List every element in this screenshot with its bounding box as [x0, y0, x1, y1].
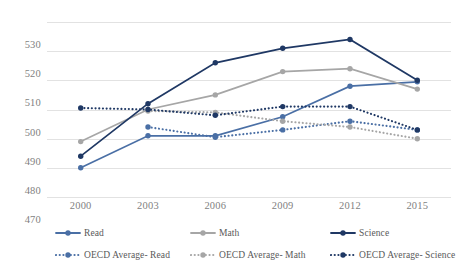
plot-area — [47, 22, 451, 197]
data-point — [78, 165, 83, 170]
data-point — [213, 113, 218, 118]
data-point — [280, 69, 285, 74]
y-tick-label: 510 — [25, 97, 41, 108]
gridline-470 — [47, 197, 451, 198]
data-point — [213, 60, 218, 65]
data-point — [347, 66, 352, 71]
data-point — [145, 107, 150, 112]
y-tick-label: 470 — [25, 214, 41, 225]
chart-legend: ReadMathScienceOECD Average- ReadOECD Av… — [0, 228, 469, 273]
line-chart: 470480490500510520530 200020032006200920… — [0, 0, 469, 273]
data-point — [415, 127, 420, 132]
data-point — [145, 124, 150, 129]
y-tick-label: 520 — [25, 68, 41, 79]
legend-item[interactable]: Read — [55, 228, 104, 238]
legend-label: OECD Average- Math — [219, 250, 306, 260]
series-lines — [47, 22, 451, 197]
data-point — [213, 92, 218, 97]
legend-swatch-icon — [55, 228, 81, 238]
legend-label: Math — [219, 228, 239, 238]
x-tick-label: 2000 — [70, 200, 92, 211]
legend-swatch-icon — [190, 228, 216, 238]
data-point — [347, 119, 352, 124]
y-tick-label: 530 — [25, 39, 41, 50]
data-point — [347, 37, 352, 42]
data-point — [415, 78, 420, 83]
data-point — [145, 133, 150, 138]
x-tick-label: 2009 — [272, 200, 294, 211]
data-point — [78, 105, 83, 110]
series-line — [81, 82, 418, 168]
legend-row: OECD Average- ReadOECD Average- MathOECD… — [0, 250, 469, 270]
legend-item[interactable]: Science — [330, 228, 389, 238]
data-point — [415, 136, 420, 141]
legend-label: Read — [84, 228, 104, 238]
y-tick-label: 500 — [25, 126, 41, 137]
legend-swatch-icon — [190, 250, 216, 260]
series-line — [81, 40, 418, 157]
legend-swatch-icon — [330, 228, 356, 238]
x-tick-label: 2015 — [406, 200, 428, 211]
data-point — [347, 84, 352, 89]
y-tick-label: 480 — [25, 184, 41, 195]
series-line — [81, 69, 418, 142]
data-point — [78, 139, 83, 144]
legend-swatch-icon — [330, 250, 356, 260]
data-point — [280, 127, 285, 132]
x-tick-label: 2006 — [204, 200, 226, 211]
legend-row: ReadMathScience — [0, 228, 469, 248]
legend-item[interactable]: OECD Average- Math — [190, 250, 306, 260]
legend-label: OECD Average- Science — [359, 250, 455, 260]
data-point — [78, 154, 83, 159]
legend-item[interactable]: OECD Average- Read — [55, 250, 170, 260]
data-point — [347, 124, 352, 129]
legend-item[interactable]: OECD Average- Science — [330, 250, 455, 260]
legend-label: Science — [359, 228, 389, 238]
data-point — [280, 104, 285, 109]
data-point — [280, 119, 285, 124]
legend-swatch-icon — [55, 250, 81, 260]
x-tick-label: 2003 — [137, 200, 159, 211]
data-point — [213, 135, 218, 140]
y-axis-labels: 470480490500510520530 — [0, 22, 41, 197]
data-point — [145, 101, 150, 106]
data-point — [415, 86, 420, 91]
y-tick-label: 490 — [25, 155, 41, 166]
data-point — [280, 46, 285, 51]
legend-item[interactable]: Math — [190, 228, 239, 238]
legend-label: OECD Average- Read — [84, 250, 170, 260]
x-axis-labels: 200020032006200920122015 — [47, 200, 451, 216]
data-point — [347, 104, 352, 109]
x-tick-label: 2012 — [339, 200, 361, 211]
